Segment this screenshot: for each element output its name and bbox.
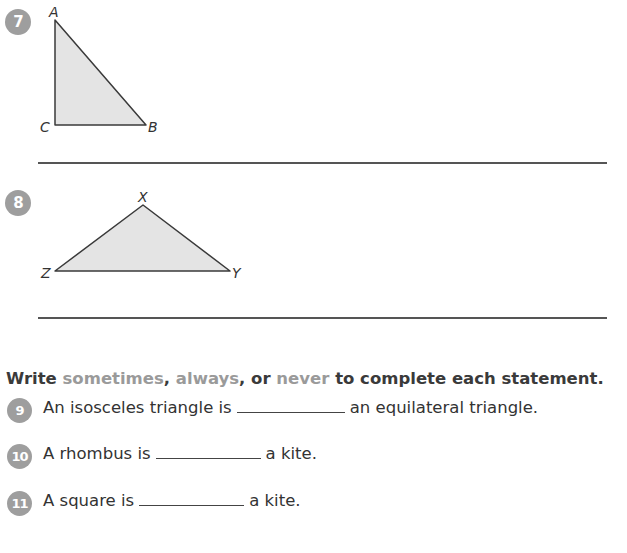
vertex-label-b: B — [148, 119, 158, 135]
problem-number-badge: 10 — [7, 444, 32, 469]
fill-in-blank[interactable] — [237, 412, 345, 414]
problem-number-badge: 11 — [7, 491, 32, 516]
statement-10: A rhombus is a kite. — [43, 444, 317, 463]
statement-text-after: a kite. — [249, 491, 300, 510]
statement-9: An isosceles triangle is an equilateral … — [43, 398, 538, 417]
fill-in-blank[interactable] — [156, 458, 261, 460]
vertex-label-a: A — [48, 4, 59, 20]
geometry-figures: A B C X Y Z — [0, 0, 627, 553]
vertex-label-y: Y — [232, 265, 242, 281]
instruction-sep: , or — [239, 369, 271, 388]
statement-text-before: A square is — [43, 491, 134, 510]
triangle-abc: A B C — [40, 4, 158, 135]
triangle-xyz: X Y Z — [40, 189, 242, 281]
statement-text-before: A rhombus is — [43, 444, 151, 463]
problem-number-badge: 9 — [7, 398, 32, 423]
instruction-rest: to complete each statement. — [335, 369, 604, 388]
statement-text-before: An isosceles triangle is — [43, 398, 232, 417]
keyword-always: always — [176, 369, 239, 388]
instruction-write: Write — [6, 369, 57, 388]
answer-line[interactable] — [38, 317, 607, 319]
statement-text-after: an equilateral triangle. — [350, 398, 538, 417]
statement-text-after: a kite. — [266, 444, 317, 463]
instruction-sep: , — [164, 369, 170, 388]
keyword-sometimes: sometimes — [63, 369, 164, 388]
vertex-label-x: X — [137, 189, 148, 205]
statement-11: A square is a kite. — [43, 491, 301, 510]
answer-line[interactable] — [38, 162, 607, 164]
vertex-label-c: C — [40, 119, 50, 135]
keyword-never: never — [276, 369, 329, 388]
problem-number-badge: 8 — [5, 190, 31, 216]
vertex-label-z: Z — [40, 265, 51, 281]
instruction-text: Write sometimes, always, or never to com… — [6, 369, 604, 388]
fill-in-blank[interactable] — [139, 505, 244, 507]
